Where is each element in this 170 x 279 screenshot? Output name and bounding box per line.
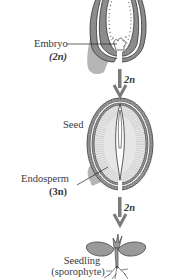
label-embryo-ploidy: (2n)	[49, 51, 67, 63]
label-endosperm-ploidy: (3n)	[49, 186, 67, 198]
arrow-1-label: 2n	[124, 74, 135, 86]
ovule-illustration	[87, 0, 146, 74]
label-seed: Seed	[63, 119, 83, 131]
arrow-2-label: 2n	[124, 202, 135, 214]
label-endosperm: Endosperm	[21, 173, 69, 185]
seed-development-diagram	[0, 0, 170, 279]
seed-illustration	[87, 98, 153, 191]
label-embryo: Embryo	[34, 38, 68, 50]
label-sporophyte: (sporophyte)	[44, 266, 112, 278]
